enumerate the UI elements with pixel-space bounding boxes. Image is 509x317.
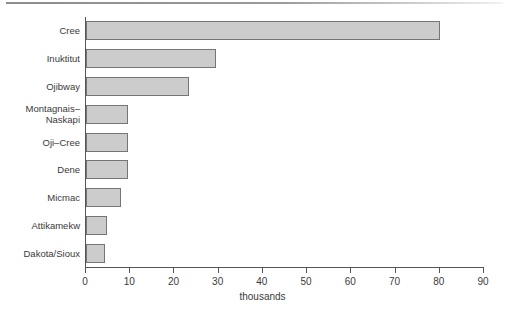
x-axis-tick	[483, 268, 484, 273]
bar	[86, 49, 216, 68]
x-axis-title: thousands	[0, 291, 509, 302]
bar	[86, 188, 121, 207]
x-axis-tick-label: 20	[168, 276, 179, 288]
category-label: Ojibway	[46, 81, 80, 92]
x-axis-tick	[173, 268, 174, 273]
category-label: Micmac	[47, 192, 80, 203]
category-label: Dakota/Sioux	[23, 248, 80, 259]
category-label: Dene	[57, 164, 80, 175]
x-axis-tick-label: 60	[345, 276, 356, 288]
bar	[86, 133, 128, 152]
category-label: Cree	[59, 25, 80, 36]
x-axis-tick-label: 80	[433, 276, 444, 288]
x-axis-tick	[262, 268, 263, 273]
bar	[86, 160, 128, 179]
x-axis-tick-label: 10	[124, 276, 135, 288]
category-label: Montagnais– Naskapi	[26, 103, 80, 125]
x-axis-tick-label: 0	[82, 276, 88, 288]
x-axis-tick-label: 90	[477, 276, 488, 288]
x-axis-tick-label: 50	[301, 276, 312, 288]
bar	[86, 77, 189, 96]
x-axis-tick	[129, 268, 130, 273]
x-axis-tick	[350, 268, 351, 273]
x-axis-tick-label: 30	[212, 276, 223, 288]
bar	[86, 244, 105, 263]
x-axis-tick	[218, 268, 219, 273]
x-axis-tick-label: 40	[256, 276, 267, 288]
x-axis-tick	[395, 268, 396, 273]
x-axis-line	[85, 267, 484, 268]
x-axis-title-text: thousands	[239, 291, 285, 302]
bar	[86, 21, 440, 40]
x-axis-tick-label: 70	[389, 276, 400, 288]
bar	[86, 216, 107, 235]
category-label: Inuktitut	[47, 53, 80, 64]
x-axis-tick	[439, 268, 440, 273]
x-axis-tick	[306, 268, 307, 273]
bar	[86, 105, 128, 124]
x-axis-tick	[85, 268, 86, 273]
category-label: Attikamekw	[31, 220, 80, 231]
category-label: Oji–Cree	[43, 137, 81, 148]
bar-chart: CreeInuktitutOjibwayMontagnais– NaskapiO…	[0, 0, 509, 317]
